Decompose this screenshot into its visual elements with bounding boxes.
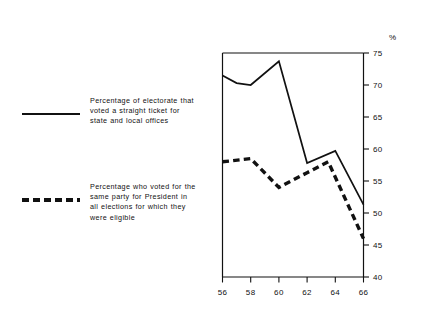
chart-figure: Percentage of electorate that voted a st… [0, 0, 431, 318]
x-axis-tick-marks [223, 277, 364, 283]
x-axis-tick-label: 64 [330, 288, 340, 297]
line-chart-svg: 4045505560657075 565860626466 % [0, 0, 431, 318]
y-axis-unit-label: % [389, 33, 396, 42]
x-axis-tick-label: 66 [359, 288, 369, 297]
y-axis-tick-label: 65 [373, 113, 383, 122]
y-axis-tick-label: 55 [373, 177, 383, 186]
series-line-straight-ticket [223, 61, 364, 204]
y-axis-tick-label: 60 [373, 145, 383, 154]
x-axis-tick-label: 60 [274, 288, 284, 297]
y-axis-tick-label: 50 [373, 209, 383, 218]
y-axis-tick-label: 40 [373, 273, 383, 282]
chart-plot-area: 4045505560657075 565860626466 % [0, 0, 431, 318]
x-axis-tick-label: 62 [302, 288, 312, 297]
y-axis-tick-labels: 4045505560657075 [373, 49, 383, 282]
x-axis-tick-labels: 565860626466 [218, 288, 369, 297]
y-axis-tick-label: 70 [373, 81, 383, 90]
y-axis-tick-label: 45 [373, 241, 383, 250]
series-line-same-party-president [223, 159, 364, 239]
x-axis-tick-label: 58 [246, 288, 256, 297]
y-axis-tick-label: 75 [373, 49, 383, 58]
x-axis-tick-label: 56 [218, 288, 228, 297]
y-axis-tick-marks [364, 53, 370, 277]
